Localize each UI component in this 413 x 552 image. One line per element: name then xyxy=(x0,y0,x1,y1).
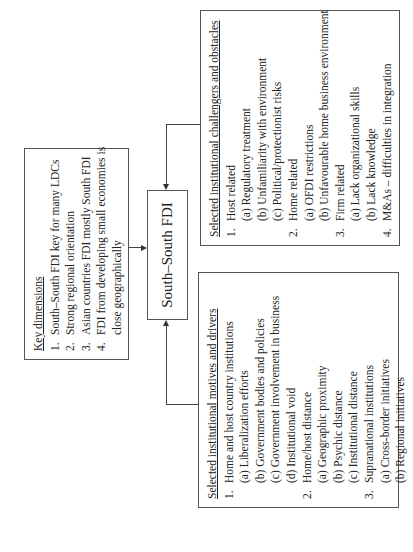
list-item: 3.Supranational institutions xyxy=(362,281,378,499)
list-subitem: (c) Institutional distance xyxy=(346,281,362,499)
motives-box: Selected institutional motives and drive… xyxy=(198,272,399,508)
diagram-canvas: Key dimensions 1.South–South FDI key for… xyxy=(0,0,413,552)
list-subitem: (b) Regional initiatives xyxy=(393,281,409,499)
list-subitem: (a) Regulatory treatment xyxy=(239,19,255,237)
arrow-head-icon xyxy=(163,184,169,190)
list-item: 2.Home/host distance xyxy=(300,281,316,499)
list-item: 1.Host related xyxy=(224,19,240,237)
connector-challenges xyxy=(166,124,200,125)
center-label: South–South FDI xyxy=(159,202,176,307)
list-subitem: (a) Cross-border initiatives xyxy=(378,281,394,499)
list-subitem: (b) Lack knowledge xyxy=(364,19,380,237)
list-subitem: (a) Liberalization efforts xyxy=(237,281,253,499)
connector-motives xyxy=(166,404,198,405)
key-dimensions-box: Key dimensions 1.South–South FDI key for… xyxy=(24,148,129,360)
south-south-fdi-box: South–South FDI xyxy=(147,190,188,320)
list-item: 1.South–South FDI key for many LDCs xyxy=(48,157,64,351)
list-item: 2.Home related xyxy=(286,19,302,237)
list-subitem: (d) Institutional void xyxy=(284,281,300,499)
connector-challenges-h xyxy=(166,124,167,184)
motives-title: Selected institutional motives and drive… xyxy=(205,281,221,499)
list-subitem: (c) Government involvement in business xyxy=(268,281,284,499)
key-dimensions-title: Key dimensions xyxy=(31,157,47,351)
connector-motives-h xyxy=(166,326,167,405)
list-item: 4.M&As – difficulties in integration xyxy=(380,19,396,237)
challenges-title: Selected institutional challengers and o… xyxy=(207,19,223,237)
list-subitem: (b) Unfavourable home business environme… xyxy=(317,19,333,237)
list-subitem: (a) Geographic proximity xyxy=(315,281,331,499)
list-item: 3.Firm related xyxy=(333,19,349,237)
list-subitem: (a) Lack organizational skills xyxy=(348,19,364,237)
list-subitem: (b) Government bodies and policies xyxy=(253,281,269,499)
list-item-continuation: close geographically xyxy=(110,157,126,351)
arrow-head-icon xyxy=(163,320,169,326)
list-item: 2.Strong regional orientation xyxy=(63,157,79,351)
list-item: 4.FDI from developing small economies is xyxy=(94,157,110,351)
list-subitem: (a) OFDI restrictions xyxy=(302,19,318,237)
list-subitem: (b) Psychic distance xyxy=(331,281,347,499)
list-subitem: (b) Unfamiliarity with environment xyxy=(255,19,271,237)
challenges-box: Selected institutional challengers and o… xyxy=(200,10,400,246)
list-item: 1.Home and host country institutions xyxy=(222,281,238,499)
list-item: 3.Asian countries FDI mostly South FDI xyxy=(79,157,95,351)
list-subitem: (c) Political/protectionist risks xyxy=(270,19,286,237)
